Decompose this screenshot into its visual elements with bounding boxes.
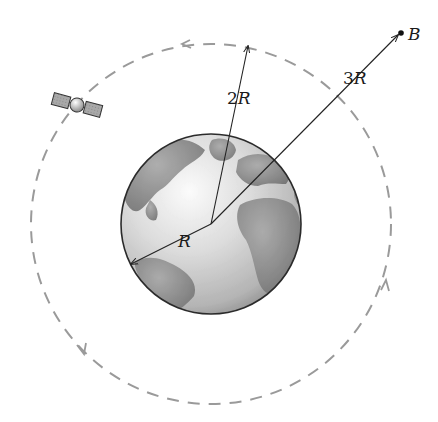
label-B: B — [407, 24, 421, 44]
orbit-arrow-icon — [381, 280, 389, 291]
satellite-icon — [51, 92, 103, 118]
orbit-diagram: 2R 3R R B — [0, 0, 438, 422]
label-2R: 2R — [227, 88, 251, 108]
label-3R: 3R — [343, 68, 367, 88]
point-b-dot — [398, 30, 404, 36]
earth — [121, 134, 305, 316]
label-R: R — [177, 231, 191, 251]
distance-3R-line — [211, 35, 398, 224]
